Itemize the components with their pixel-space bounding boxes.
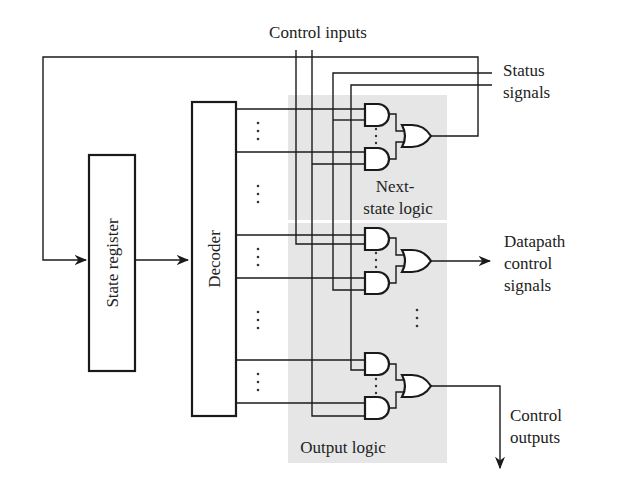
state-register-label: State register xyxy=(103,218,122,308)
decoder-label: Decoder xyxy=(205,230,224,288)
next-state-label-2: state logic xyxy=(363,199,433,218)
status-label-2: signals xyxy=(503,83,550,102)
ellipsis-dots xyxy=(257,311,260,330)
output-logic-label: Output logic xyxy=(300,438,386,457)
and-gate-icon xyxy=(365,353,389,375)
ellipsis-dots xyxy=(257,248,260,267)
and-gate-icon xyxy=(365,397,389,419)
ellipsis-dots xyxy=(257,185,260,204)
and-gate-icon xyxy=(365,272,389,294)
ellipsis-dots xyxy=(257,373,260,392)
datapath-label-2: control xyxy=(504,254,552,273)
control-inputs-label: Control inputs xyxy=(269,23,367,42)
status-label-1: Status xyxy=(503,61,545,80)
ellipsis-dots xyxy=(257,122,260,141)
datapath-label-1: Datapath xyxy=(504,232,566,251)
and-gate-icon xyxy=(365,148,389,170)
next-state-label-1: Next- xyxy=(376,177,415,196)
control-outputs-label-2: outputs xyxy=(510,428,560,447)
control-outputs-label-1: Control xyxy=(510,406,562,425)
control-unit-diagram: Control inputs St xyxy=(0,0,617,486)
and-gate-icon xyxy=(365,228,389,250)
and-gate-icon xyxy=(365,104,389,126)
datapath-label-3: signals xyxy=(504,276,551,295)
